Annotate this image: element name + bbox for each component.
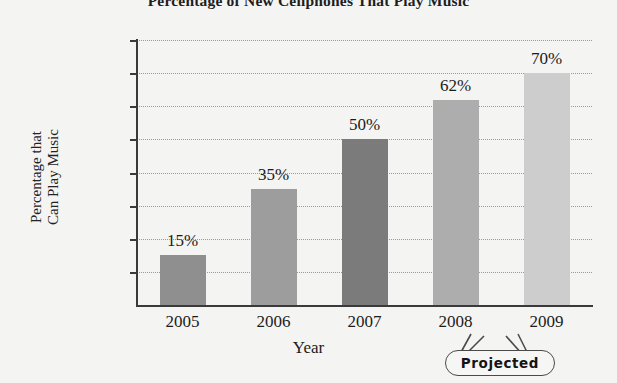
bar-value-label: 70% [512, 49, 582, 69]
x-tick-label: 2009 [502, 312, 592, 332]
y-tick-mark [130, 173, 138, 175]
gridline [137, 40, 592, 41]
y-axis-title: Percentage that Can Play Music [28, 62, 62, 292]
bar [251, 189, 297, 305]
y-tick-mark [130, 239, 138, 241]
bar-value-label: 35% [239, 165, 309, 185]
y-tick-mark [130, 106, 138, 108]
y-tick-mark [130, 272, 138, 274]
x-tick-label: 2008 [411, 312, 501, 332]
bar [524, 73, 570, 305]
y-tick-mark [130, 139, 138, 141]
x-tick-label: 2006 [229, 312, 319, 332]
bar [433, 100, 479, 305]
bar [342, 139, 388, 305]
y-tick-mark [130, 73, 138, 75]
y-tick-mark [130, 40, 138, 42]
bar-value-label: 62% [421, 76, 491, 96]
plot-area [137, 40, 592, 305]
bar-value-label: 50% [330, 115, 400, 135]
bar-chart: Percentage of New Cellphones That Play M… [0, 0, 617, 383]
bar-value-label: 15% [148, 231, 218, 251]
x-tick-label: 2005 [138, 312, 228, 332]
y-tick-mark [130, 206, 138, 208]
projected-callout-label: Projected [461, 355, 539, 371]
x-axis-line [136, 305, 593, 307]
chart-title: Percentage of New Cellphones That Play M… [0, 0, 617, 10]
projected-callout: Projected [445, 350, 555, 376]
bar [160, 255, 206, 305]
x-tick-label: 2007 [320, 312, 410, 332]
